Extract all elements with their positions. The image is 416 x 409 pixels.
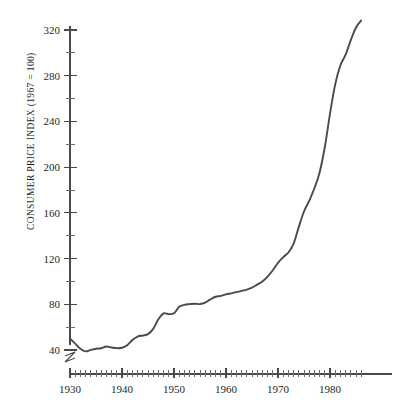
y-axis-break-icon <box>65 352 75 362</box>
x-tick-label: 1970 <box>267 383 290 395</box>
y-tick-label: 120 <box>44 253 61 265</box>
y-tick-label: 240 <box>44 115 61 127</box>
y-tick-label: 200 <box>44 161 61 173</box>
y-tick-label: 320 <box>44 24 61 36</box>
x-tick-label: 1980 <box>319 383 342 395</box>
cpi-line-chart: CONSUMER PRICE INDEX (1967 = 100) 408012… <box>0 0 416 409</box>
y-tick-label: 40 <box>49 344 61 356</box>
series-group <box>70 20 361 351</box>
y-tick-label: 160 <box>44 207 61 219</box>
x-tick-label: 1940 <box>111 383 134 395</box>
x-axis-ticks: 193019401950196019701980 <box>59 368 361 395</box>
x-tick-label: 1930 <box>59 383 82 395</box>
x-tick-label: 1960 <box>215 383 238 395</box>
axes <box>65 26 392 374</box>
chart-figure: CONSUMER PRICE INDEX (1967 = 100) 408012… <box>0 0 416 409</box>
y-axis-label-text: CONSUMER PRICE INDEX (1967 = 100) <box>26 52 37 230</box>
y-axis-label: CONSUMER PRICE INDEX (1967 = 100) <box>26 52 37 230</box>
series-consumer-price-index <box>70 20 361 351</box>
y-axis-ticks: 4080120160200240280320 <box>44 24 78 356</box>
y-tick-label: 280 <box>44 70 61 82</box>
x-tick-label: 1950 <box>163 383 186 395</box>
y-tick-label: 80 <box>49 298 61 310</box>
